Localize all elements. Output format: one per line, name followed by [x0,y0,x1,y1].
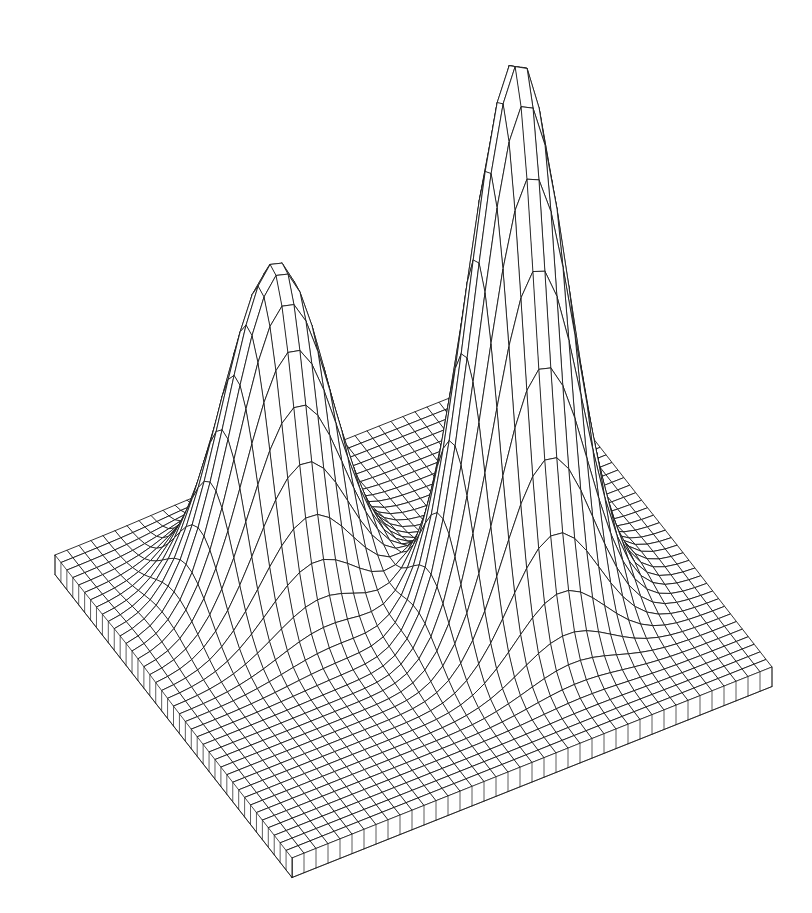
wireframe-surface-figure [0,0,812,913]
surface-plot-canvas [0,0,812,913]
